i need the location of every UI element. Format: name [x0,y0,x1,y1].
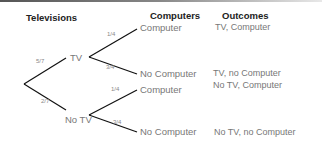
prob-tv-computer: 1/4 [107,31,115,37]
node-no-tv-no-computer: No Computer [140,126,197,137]
node-no-tv-computer: Computer [140,84,182,95]
outcome-tv-no-computer: TV, no Computer [213,68,281,79]
outcome-no-tv-no-computer: No TV, no Computer [214,127,296,138]
node-tv-no-computer: No Computer [140,68,197,79]
prob-no-tv-no-computer: 3/4 [113,119,121,125]
node-tv: TV [70,52,82,63]
prob-tv: 5/7 [36,58,44,64]
outcome-no-tv-computer: No TV, Computer [213,80,282,91]
outcome-tv-computer: TV, Computer [215,22,270,33]
node-no-tv: No TV [65,114,92,125]
prob-no-tv: 2/7 [41,98,49,104]
prob-no-tv-computer: 1/4 [111,86,119,92]
prob-tv-no-computer: 3/4 [106,64,114,70]
node-tv-computer: Computer [140,22,182,33]
